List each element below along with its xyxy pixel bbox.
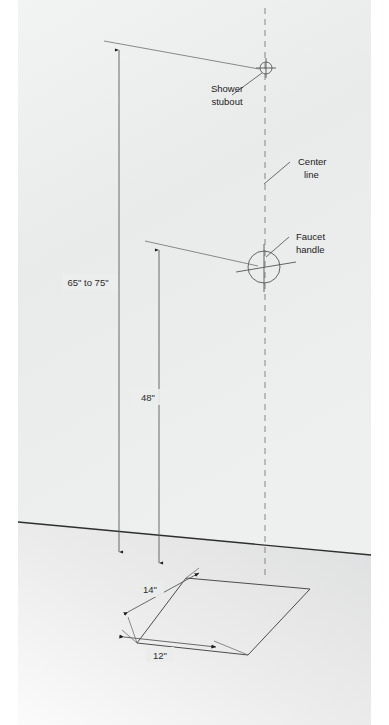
- dimension-label-faucet-height: 48": [141, 392, 155, 403]
- callout-center-line-line1: Center: [298, 156, 327, 167]
- callout-shower-stubout-line2: stubout: [211, 96, 243, 107]
- dimension-label-pan-depth: 14": [143, 584, 157, 595]
- dimension-label-stubout-height: 65" to 75": [67, 277, 108, 288]
- callout-faucet-handle-line1: Faucet: [296, 231, 325, 242]
- floor-surface: [18, 522, 371, 725]
- callout-shower-stubout-line1: Shower: [211, 83, 243, 94]
- dimension-label-pan-width: 12": [153, 650, 167, 661]
- callout-faucet-handle-line2: handle: [296, 244, 325, 255]
- shower-rough-in-diagram: 65" to 75" 48" 14" 12" Sho: [0, 0, 389, 725]
- callout-center-line-line2: line: [304, 169, 319, 180]
- diagram-canvas: 65" to 75" 48" 14" 12" Sho: [0, 0, 389, 725]
